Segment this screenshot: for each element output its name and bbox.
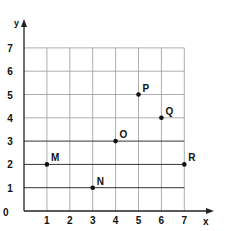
y-tick-label: 2 bbox=[7, 159, 13, 170]
grid bbox=[24, 48, 184, 211]
x-axis-label: x bbox=[203, 216, 209, 227]
point-marker-icon bbox=[90, 185, 95, 190]
y-axis-arrow-icon bbox=[21, 19, 27, 27]
point-label: M bbox=[51, 152, 59, 163]
x-tick-label: 1 bbox=[44, 215, 50, 226]
x-tick-label: 6 bbox=[159, 215, 165, 226]
x-tick-label: 2 bbox=[67, 215, 73, 226]
point-marker-icon bbox=[113, 139, 118, 144]
point-marker-icon bbox=[182, 162, 187, 167]
y-tick-label: 6 bbox=[7, 66, 13, 77]
x-tick-label: 4 bbox=[113, 215, 119, 226]
point-label: Q bbox=[165, 106, 173, 117]
y-axis-label: y bbox=[14, 18, 19, 28]
axes: x y 0 bbox=[3, 18, 214, 227]
tick-labels: 12345671234567 bbox=[7, 43, 187, 226]
x-tick-label: 5 bbox=[136, 215, 142, 226]
point-marker-icon bbox=[45, 162, 50, 167]
y-tick-label: 1 bbox=[7, 183, 13, 194]
x-tick-label: 3 bbox=[90, 215, 96, 226]
point-label: O bbox=[120, 129, 128, 140]
coordinate-plane: x y 0 12345671234567 MNOPQR bbox=[0, 0, 233, 231]
origin-label: 0 bbox=[3, 207, 9, 218]
x-tick-label: 7 bbox=[182, 215, 188, 226]
y-tick-label: 5 bbox=[7, 90, 13, 101]
x-axis-arrow-icon bbox=[206, 208, 214, 214]
point-label: R bbox=[188, 152, 196, 163]
y-tick-label: 4 bbox=[7, 113, 13, 124]
point-marker-icon bbox=[136, 92, 141, 97]
y-tick-label: 7 bbox=[7, 43, 13, 54]
data-points: MNOPQR bbox=[45, 83, 197, 191]
y-tick-label: 3 bbox=[7, 136, 13, 147]
point-marker-icon bbox=[159, 116, 164, 121]
point-label: N bbox=[97, 176, 104, 187]
point-label: P bbox=[143, 83, 150, 94]
